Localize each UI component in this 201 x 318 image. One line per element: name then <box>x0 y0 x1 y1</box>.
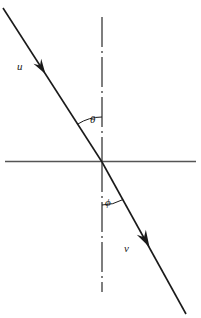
angle-theta-label: θ <box>90 114 95 125</box>
diagram-canvas <box>0 0 201 318</box>
incident-ray-arrowhead <box>33 59 45 74</box>
refracted-ray-label: v <box>124 243 129 254</box>
incident-ray-line <box>3 8 102 162</box>
refraction-diagram: u θ ϕ v <box>0 0 201 318</box>
angle-phi-label: ϕ <box>105 197 111 208</box>
incident-ray-label: u <box>17 61 23 72</box>
refracted-ray-arrowhead <box>137 230 150 247</box>
